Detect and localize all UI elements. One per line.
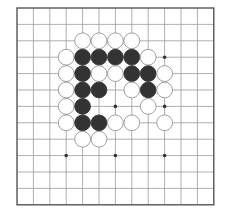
white-stone — [124, 82, 140, 98]
black-stone — [75, 49, 91, 65]
white-stone — [124, 33, 140, 49]
black-stone — [91, 82, 107, 98]
white-stone — [108, 115, 124, 131]
white-stone — [91, 33, 107, 49]
hoshi-point — [114, 154, 118, 158]
black-stone — [140, 66, 156, 82]
white-stone — [91, 131, 107, 147]
hoshi-point — [163, 154, 167, 158]
white-stone — [58, 99, 74, 115]
hoshi-point — [64, 154, 68, 158]
white-stone — [140, 99, 156, 115]
black-stone — [75, 82, 91, 98]
white-stone — [108, 66, 124, 82]
white-stone — [75, 33, 91, 49]
white-stone — [124, 115, 140, 131]
white-stone — [157, 115, 173, 131]
black-stone — [75, 66, 91, 82]
black-stone — [140, 82, 156, 98]
white-stone — [75, 131, 91, 147]
white-stone — [140, 49, 156, 65]
black-stone — [75, 99, 91, 115]
white-stone — [157, 66, 173, 82]
hoshi-point — [163, 105, 167, 109]
hoshi-point — [114, 105, 118, 109]
black-stone — [124, 49, 140, 65]
black-stone — [91, 49, 107, 65]
white-stone — [157, 82, 173, 98]
white-stone — [91, 66, 107, 82]
white-stone — [58, 82, 74, 98]
black-stone — [75, 115, 91, 131]
black-stone — [91, 115, 107, 131]
hoshi-point — [163, 55, 167, 59]
white-stone — [58, 49, 74, 65]
white-stone — [58, 66, 74, 82]
white-stone — [108, 33, 124, 49]
white-stone — [58, 115, 74, 131]
black-stone — [124, 66, 140, 82]
black-stone — [108, 49, 124, 65]
go-board — [0, 0, 227, 220]
